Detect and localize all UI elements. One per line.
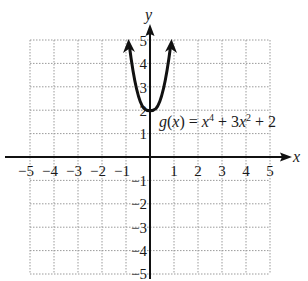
svg-text:−1: −1 [131,173,147,189]
svg-text:−2: −2 [90,163,106,179]
svg-text:−4: −4 [42,163,58,179]
svg-text:−1: −1 [114,163,130,179]
svg-text:4: 4 [140,56,148,72]
svg-text:5: 5 [140,33,148,49]
svg-text:−3: −3 [131,220,147,236]
axes [5,24,292,279]
svg-text:1: 1 [140,126,148,142]
function-graph: x y −5 −4 −3 −2 −1 1 2 3 4 5 5 4 3 2 1 −… [0,0,308,281]
svg-text:4: 4 [242,163,250,179]
svg-text:−2: −2 [131,196,147,212]
svg-text:−3: −3 [66,163,82,179]
svg-text:2: 2 [194,163,202,179]
x-axis-label: x [292,148,300,165]
y-axis-label: y [143,6,153,24]
svg-text:3: 3 [218,163,226,179]
svg-text:−5: −5 [18,163,34,179]
svg-text:5: 5 [266,163,274,179]
svg-text:3: 3 [140,80,148,96]
svg-text:1: 1 [170,163,178,179]
function-equation-label: g(x) = x4 + 3x2 + 2 [159,112,276,131]
svg-text:−5: −5 [131,266,147,281]
svg-text:−4: −4 [131,243,147,259]
